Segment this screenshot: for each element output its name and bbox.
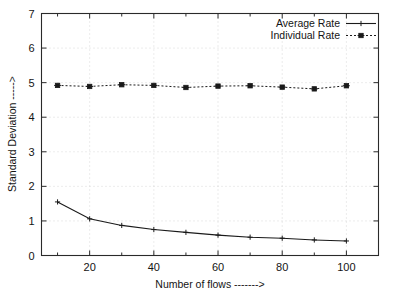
x-axis-tick-labels: 20406080100 xyxy=(84,261,356,273)
y-tick-label: 5 xyxy=(28,77,34,89)
x-tick-label: 60 xyxy=(212,261,224,273)
x-tick-label: 40 xyxy=(148,261,160,273)
x-axis-title: Number of flows -------> xyxy=(155,278,264,290)
chart-plot-area: 01234567 20406080100 Average RateIndivid… xyxy=(0,0,394,299)
y-axis-title: Standard Deviation -----> xyxy=(6,76,18,192)
x-tick-label: 100 xyxy=(337,261,355,273)
chart-legend: Average RateIndividual Rate xyxy=(271,17,376,41)
y-tick-label: 7 xyxy=(28,8,34,20)
data-series-group xyxy=(54,83,350,244)
y-tick-label: 1 xyxy=(28,215,34,227)
y-tick-label: 6 xyxy=(28,42,34,54)
y-tick-label: 0 xyxy=(28,250,34,262)
x-tick-label: 20 xyxy=(84,261,96,273)
series-line-individual-rate xyxy=(58,85,347,89)
y-tick-label: 4 xyxy=(28,111,34,123)
series-line-average-rate xyxy=(58,202,347,241)
y-tick-label: 2 xyxy=(28,180,34,192)
x-tick-label: 80 xyxy=(276,261,288,273)
y-tick-label: 3 xyxy=(28,146,34,158)
legend-label-individual-rate: Individual Rate xyxy=(271,29,341,41)
legend-label-average-rate: Average Rate xyxy=(276,17,340,29)
y-axis-tick-labels: 01234567 xyxy=(28,8,34,262)
chart-figure: 01234567 20406080100 Average RateIndivid… xyxy=(0,0,394,299)
